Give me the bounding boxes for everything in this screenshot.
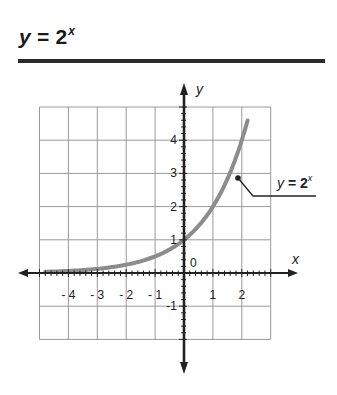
callout: y = 2x (235, 173, 316, 196)
origin-label: 0 (190, 256, 197, 270)
chart: - 4- 3- 2- 112-112340xy y = 2x (0, 0, 337, 395)
y-tick-label: 3 (170, 166, 177, 180)
curve-2-pow-x (45, 121, 247, 272)
x-axis-label: x (291, 251, 300, 267)
x-tick-label: - 3 (90, 288, 104, 302)
x-tick-label: - 2 (119, 288, 133, 302)
x-tick-label: - 1 (148, 288, 162, 302)
y-axis-arrow-down-icon (180, 362, 188, 374)
x-tick-label: 2 (238, 288, 245, 302)
y-tick-label: 4 (170, 133, 177, 147)
grid (40, 107, 271, 339)
curve (45, 121, 247, 272)
x-axis-arrow-right-icon (288, 269, 298, 277)
y-tick-label: 2 (170, 200, 177, 214)
callout-label: y = 2x (276, 173, 313, 191)
x-axis-arrow-left-icon (18, 269, 28, 277)
axes (18, 83, 298, 374)
y-tick-label: -1 (166, 299, 177, 313)
x-tick-label: - 4 (61, 288, 75, 302)
x-tick-label: 1 (210, 288, 217, 302)
y-tick-label: 1 (170, 233, 177, 247)
y-axis-label: y (195, 81, 204, 97)
y-axis-arrow-up-icon (180, 83, 188, 95)
